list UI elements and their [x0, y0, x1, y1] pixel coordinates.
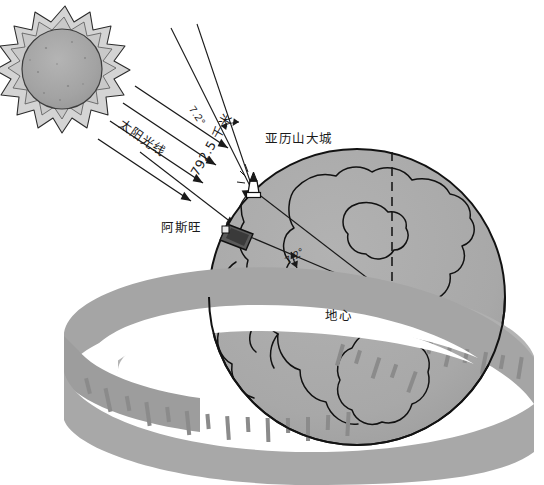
diagram-canvas: 太阳光线 7.2° 792.5 千米 亚历山大城 阿斯旺 7.2° 地心 [0, 0, 544, 485]
label-earth-center: 地心 [325, 310, 352, 323]
label-alexandria: 亚历山大城 [265, 133, 333, 146]
label-aswan: 阿斯旺 [161, 222, 202, 235]
distance-leader-lines [140, 152, 236, 226]
zenith-angle-construction [171, 24, 253, 190]
sun-disc [22, 29, 102, 109]
sun-illustration [0, 6, 130, 133]
obelisk-marker [237, 164, 261, 198]
diagram-vector-layer [0, 0, 544, 485]
